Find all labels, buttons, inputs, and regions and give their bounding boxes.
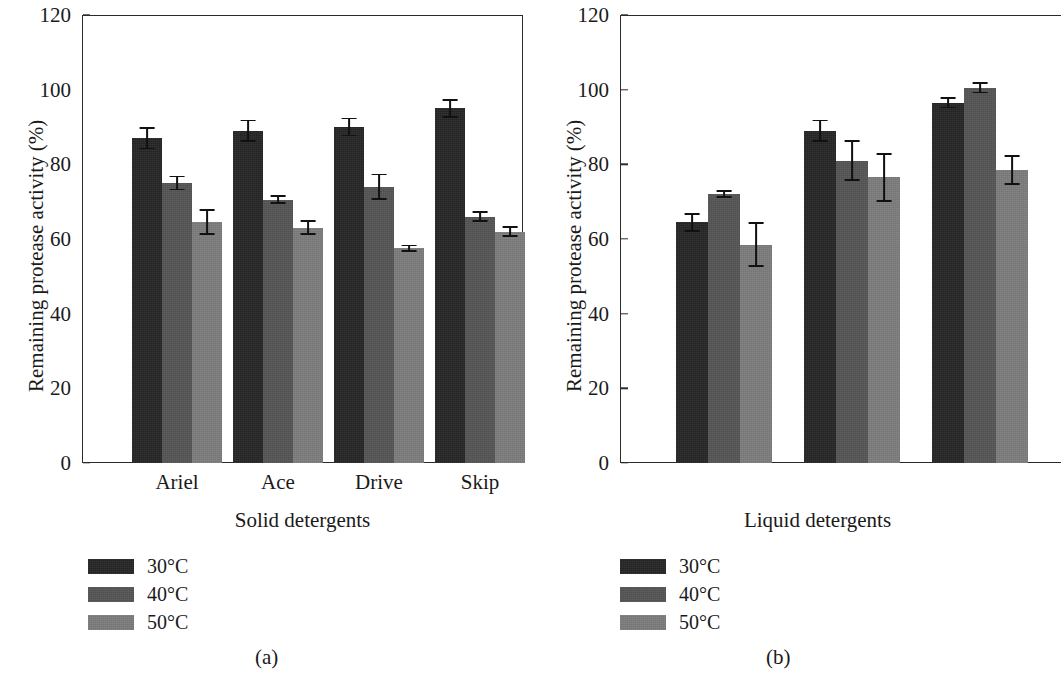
legend-swatch-icon (620, 615, 666, 630)
error-bar (277, 195, 279, 204)
y-tick-label: 80 (50, 154, 71, 175)
legend-item-a-0[interactable]: 30°C (88, 552, 188, 580)
bar-a-1-2 (293, 228, 323, 463)
error-bar (479, 211, 481, 222)
bar-b-0-0 (676, 222, 708, 463)
bar-b-0-2 (740, 245, 772, 463)
bar-fill (868, 177, 900, 463)
bar-group-b-2 (932, 15, 1028, 463)
legend-label: 40°C (679, 584, 720, 604)
bar-fill (676, 222, 708, 463)
bar-texture (996, 170, 1028, 463)
legend-item-a-1[interactable]: 40°C (88, 580, 188, 608)
plot-area-b (620, 15, 1061, 463)
error-bar (449, 99, 451, 118)
bar-texture (836, 161, 868, 463)
bar-texture (868, 177, 900, 463)
bar-a-1-0 (233, 131, 263, 463)
bar-a-3-1 (465, 217, 495, 463)
tick-mark-icon (621, 313, 628, 314)
legend-item-b-2[interactable]: 50°C (620, 608, 720, 636)
tick-mark-icon (621, 164, 628, 165)
bar-texture (495, 232, 525, 463)
legend-label: 40°C (147, 584, 188, 604)
bar-group-b-1 (804, 15, 900, 463)
bar-a-3-0 (435, 108, 465, 463)
bar-texture (708, 194, 740, 463)
bars-container-b (620, 15, 1061, 463)
bar-fill (932, 103, 964, 463)
figure-protease-activity: Remaining protease activity (%) 12010080… (0, 0, 1061, 678)
x-axis-label-b: Liquid detergents (620, 508, 1015, 533)
bar-group-a-1 (233, 15, 323, 463)
swatch-texture (88, 559, 134, 574)
tick-mark-icon (621, 462, 628, 463)
x-category-label-a-3: Skip (405, 470, 555, 495)
bar-b-1-2 (868, 177, 900, 463)
bar-fill (996, 170, 1028, 463)
bar-a-2-2 (394, 248, 424, 463)
swatch-texture (620, 559, 666, 574)
bars-container-a (82, 15, 523, 463)
bar-texture (394, 248, 424, 463)
swatch-texture (88, 587, 134, 602)
bar-a-0-2 (192, 222, 222, 463)
error-bar (247, 120, 249, 142)
bar-fill (495, 232, 525, 463)
legend-a: 30°C40°C50°C (88, 552, 188, 636)
bar-fill (836, 161, 868, 463)
tick-mark-icon (621, 89, 628, 90)
panel-caption-b: (b) (766, 645, 791, 670)
y-tick-label: 120 (578, 5, 610, 26)
error-bar (176, 176, 178, 191)
bar-fill (233, 131, 263, 463)
error-bar (755, 222, 757, 267)
bar-texture (233, 131, 263, 463)
bar-texture (132, 138, 162, 463)
swatch-texture (88, 615, 134, 630)
bar-texture (162, 183, 192, 463)
y-tick-label: 20 (588, 378, 609, 399)
bar-fill (192, 222, 222, 463)
error-bar (378, 174, 380, 200)
legend-item-b-0[interactable]: 30°C (620, 552, 720, 580)
error-bar (206, 209, 208, 235)
y-tick-label: 0 (61, 453, 72, 474)
error-bar (146, 127, 148, 149)
bar-b-0-1 (708, 194, 740, 463)
error-bar (1011, 155, 1013, 185)
bar-a-3-2 (495, 232, 525, 463)
error-bar (851, 140, 853, 181)
bar-texture (964, 88, 996, 463)
bar-texture (740, 245, 772, 463)
y-tick-label: 20 (50, 378, 71, 399)
legend-swatch-icon (88, 587, 134, 602)
plot-area-a (82, 15, 523, 463)
bar-texture (804, 131, 836, 463)
y-tick-label: 100 (578, 79, 610, 100)
x-axis-label-a: Solid detergents (82, 508, 523, 533)
bar-fill (334, 127, 364, 463)
error-bar (408, 245, 410, 252)
y-tick-label: 60 (588, 229, 609, 250)
legend-swatch-icon (620, 559, 666, 574)
legend-item-b-1[interactable]: 40°C (620, 580, 720, 608)
y-tick-label: 60 (50, 229, 71, 250)
bar-a-1-1 (263, 200, 293, 463)
tick-mark-icon (621, 388, 628, 389)
error-bar (307, 220, 309, 235)
bar-fill (132, 138, 162, 463)
y-tick-label: 100 (40, 79, 72, 100)
bar-a-0-0 (132, 138, 162, 463)
bar-b-2-1 (964, 88, 996, 463)
tick-mark-icon (621, 238, 628, 239)
bar-b-2-0 (932, 103, 964, 463)
bar-group-a-0 (132, 15, 222, 463)
legend-item-a-2[interactable]: 50°C (88, 608, 188, 636)
legend-label: 30°C (147, 556, 188, 576)
bar-texture (334, 127, 364, 463)
error-bar (979, 82, 981, 93)
y-tick-label: 40 (50, 303, 71, 324)
legend-swatch-icon (620, 587, 666, 602)
bar-group-a-2 (334, 15, 424, 463)
